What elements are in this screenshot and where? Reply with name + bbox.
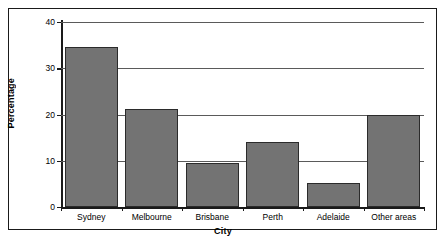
y-tick-label: 40 xyxy=(46,18,55,27)
x-tick-mark xyxy=(364,207,365,211)
x-tick-mark xyxy=(61,207,62,211)
x-tick-mark xyxy=(424,207,425,211)
x-tick-label: Brisbane xyxy=(195,213,229,222)
x-tick-mark xyxy=(182,207,183,211)
bar xyxy=(186,163,239,207)
bar xyxy=(367,115,420,207)
chart-figure: Percentage 010203040 SydneyMelbourneBris… xyxy=(0,0,446,245)
y-tick-label: 0 xyxy=(50,203,55,212)
x-tick-label: Sydney xyxy=(77,213,105,222)
bar-series xyxy=(61,22,424,207)
y-axis-title: Percentage xyxy=(6,78,20,129)
y-tick-label: 30 xyxy=(46,64,55,73)
x-tick-label: Melbourne xyxy=(132,213,172,222)
x-tick-mark xyxy=(303,207,304,211)
x-tick-label: Other areas xyxy=(371,213,416,222)
x-tick-label: Perth xyxy=(263,213,283,222)
x-tick-mark xyxy=(243,207,244,211)
bar xyxy=(65,47,118,207)
bar xyxy=(125,109,178,208)
x-tick-label: Adelaide xyxy=(317,213,350,222)
bar xyxy=(246,142,299,207)
y-tick-label: 20 xyxy=(46,110,55,119)
y-tick-label: 10 xyxy=(46,157,55,166)
x-tick-mark xyxy=(122,207,123,211)
x-axis-title: City xyxy=(0,226,446,236)
bar xyxy=(307,183,360,207)
